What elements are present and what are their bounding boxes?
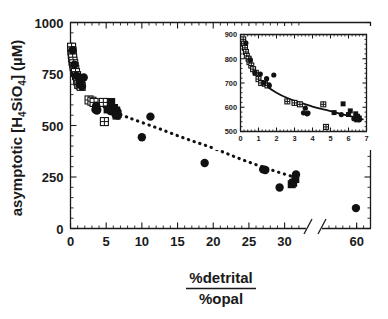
- x-axis-title-numerator: %detrital: [189, 269, 252, 286]
- marker-filled-square: [341, 101, 346, 106]
- marker-filled-circle: [264, 76, 269, 81]
- marker-filled-circle: [200, 159, 208, 167]
- marker-crossed-square: [99, 98, 107, 106]
- figure-container: 05101520253060 02505007501000 01234567 5…: [0, 0, 388, 319]
- inset-x-tick-label: 1: [256, 134, 260, 143]
- inset-chart: 01234567 500600700800900: [214, 26, 372, 150]
- x-tick-label: 30: [277, 234, 291, 249]
- x-tick-label: 10: [135, 234, 149, 249]
- inset-x-tick-label: 5: [328, 134, 332, 143]
- marker-filled-square: [332, 110, 337, 115]
- inset-y-tick-label: 800: [225, 55, 237, 64]
- marker-filled-circle: [252, 70, 257, 75]
- inset-x-tick-label: 2: [274, 134, 278, 143]
- marker-filled-circle: [303, 106, 308, 111]
- marker-filled-circle: [93, 106, 101, 114]
- x-axis-title-denominator: %opal: [199, 290, 243, 307]
- marker-filled-square: [113, 112, 121, 120]
- axis-break-slash-left: [304, 219, 312, 234]
- y-tick-label: 500: [42, 119, 64, 134]
- inset-y-tick-label: 700: [225, 79, 237, 88]
- inset-y-tick-label: 500: [225, 127, 237, 136]
- y-title-mid: SiO: [8, 85, 25, 111]
- y-tick-label: 750: [42, 67, 64, 82]
- marker-crossed-square: [297, 102, 302, 107]
- marker-crossed-square: [292, 100, 297, 105]
- marker-filled-circle: [248, 57, 253, 62]
- x-tick-label: 60: [349, 234, 363, 249]
- inset-y-tick-label: 600: [225, 103, 237, 112]
- marker-filled-circle: [243, 40, 248, 45]
- marker-filled-circle: [261, 80, 266, 85]
- marker-filled-circle: [267, 83, 272, 88]
- x-axis-title: %detrital %opal: [186, 269, 256, 307]
- x-axis-tick-labels: 05101520253060: [67, 234, 364, 249]
- y-axis-tick-labels: 02505007501000: [35, 16, 64, 237]
- marker-crossed-square: [100, 118, 108, 126]
- marker-filled-circle: [78, 82, 86, 90]
- marker-filled-circle: [146, 112, 154, 120]
- marker-crossed-square: [285, 99, 290, 104]
- marker-filled-circle: [138, 133, 146, 141]
- inset-x-tick-label: 6: [346, 134, 350, 143]
- scatter-plot: 05101520253060 02505007501000 01234567 5…: [0, 0, 388, 319]
- marker-filled-square: [346, 112, 351, 117]
- x-tick-label: 15: [170, 234, 184, 249]
- inset-x-tick-label: 7: [364, 134, 368, 143]
- y-tick-label: 1000: [35, 16, 64, 31]
- marker-filled-circle: [70, 61, 78, 69]
- axis-break-slash-right: [318, 219, 326, 234]
- y-axis-title: asymptotic [H4SiO4] (µM): [8, 40, 28, 216]
- marker-filled-circle: [339, 112, 344, 117]
- marker-crossed-square: [321, 102, 326, 107]
- marker-crossed-square: [324, 124, 329, 129]
- x-tick-label: 5: [103, 234, 110, 249]
- marker-filled-circle: [68, 46, 76, 54]
- y-axis-title-text: asymptotic [H4SiO4] (µM): [8, 40, 28, 216]
- marker-filled-circle: [305, 110, 310, 115]
- marker-filled-circle: [352, 204, 360, 212]
- y-title-prefix: asymptotic [H: [8, 117, 25, 216]
- marker-filled-circle: [261, 166, 269, 174]
- x-tick-label: 0: [67, 234, 74, 249]
- y-tick-label: 0: [56, 222, 63, 237]
- y-title-suffix: ] (µM): [8, 40, 25, 80]
- x-tick-label: 20: [206, 234, 220, 249]
- x-tick-label: 25: [242, 234, 256, 249]
- inset-y-tick-label: 900: [225, 30, 237, 39]
- marker-filled-circle: [80, 73, 88, 81]
- marker-filled-circle: [271, 72, 276, 77]
- inset-x-tick-label: 0: [238, 134, 242, 143]
- marker-filled-square: [354, 117, 359, 122]
- marker-filled-circle: [275, 183, 283, 191]
- marker-filled-circle: [258, 71, 263, 76]
- inset-x-tick-label: 3: [292, 134, 296, 143]
- marker-filled-square: [291, 175, 299, 183]
- y-tick-label: 250: [42, 170, 64, 185]
